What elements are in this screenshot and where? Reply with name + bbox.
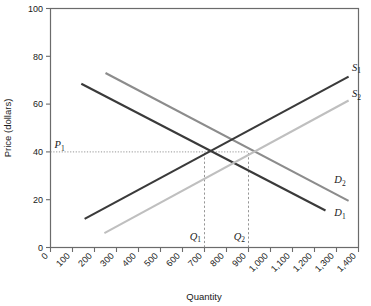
y-axis-title: Price (dollars) <box>2 99 13 158</box>
y-tick-label: 100 <box>28 4 43 14</box>
x-axis-title: Quantity <box>186 291 222 302</box>
chart-canvas: 01002003004005006007008009001,0001,1001,… <box>0 0 371 306</box>
y-tick-label: 0 <box>38 243 43 253</box>
y-tick-label: 20 <box>33 195 43 205</box>
y-tick-label: 40 <box>33 147 43 157</box>
supply-demand-chart-figure: 01002003004005006007008009001,0001,1001,… <box>0 0 371 306</box>
y-tick-label: 60 <box>33 99 43 109</box>
y-tick-label: 80 <box>33 52 43 62</box>
